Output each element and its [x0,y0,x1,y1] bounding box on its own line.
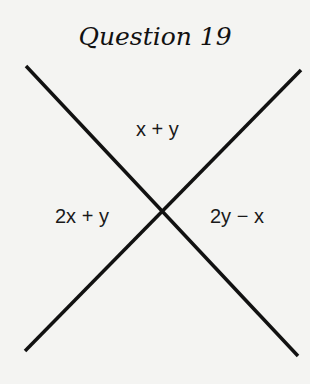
intersecting-lines [0,0,310,384]
angle-label-left: 2x + y [55,205,109,228]
angle-label-top: x + y [136,118,179,141]
angle-label-right: 2y − x [210,205,264,228]
